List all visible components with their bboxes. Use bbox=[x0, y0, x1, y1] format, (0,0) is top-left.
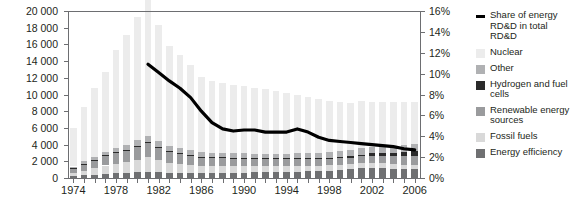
y-tick-left bbox=[64, 128, 68, 129]
share-line bbox=[68, 11, 420, 178]
y-tick-label-left: 2 000 bbox=[32, 155, 58, 167]
y-tick-label-right: 4% bbox=[429, 130, 444, 142]
y-tick-label-left: 10 000 bbox=[26, 89, 58, 101]
y-tick-label-right: 6% bbox=[429, 109, 444, 121]
legend-label: Nuclear bbox=[490, 47, 523, 58]
plot-area bbox=[68, 11, 420, 178]
y-tick-right bbox=[421, 157, 425, 158]
chart-legend: Share of energy RD&D in total RD&DNuclea… bbox=[476, 10, 577, 163]
y-tick-left bbox=[64, 11, 68, 12]
legend-swatch bbox=[476, 81, 485, 90]
y-tick-label-left: 0 bbox=[52, 172, 58, 184]
y-tick-label-left: 20 000 bbox=[26, 5, 58, 17]
legend-item[interactable]: Share of energy RD&D in total RD&D bbox=[476, 10, 577, 42]
top-spine bbox=[68, 11, 421, 12]
y-tick-right bbox=[421, 136, 425, 137]
x-tick-label: 1986 bbox=[189, 184, 213, 196]
y-tick-label-left: 6 000 bbox=[32, 122, 58, 134]
y-tick-left bbox=[64, 178, 68, 179]
y-tick-right bbox=[421, 74, 425, 75]
legend-item[interactable]: Other bbox=[476, 63, 577, 74]
legend-swatch bbox=[476, 107, 485, 116]
y-tick-label-right: 8% bbox=[429, 89, 444, 101]
y-tick-label-left: 16 000 bbox=[26, 38, 58, 50]
y-tick-left bbox=[64, 28, 68, 29]
y-tick-label-right: 16% bbox=[429, 5, 450, 17]
y-tick-label-left: 4 000 bbox=[32, 139, 58, 151]
legend-swatch bbox=[476, 49, 485, 58]
y-tick-right bbox=[421, 11, 425, 12]
y-tick-right bbox=[421, 115, 425, 116]
y-tick-label-right: 14% bbox=[429, 26, 450, 38]
legend-label: Share of energy RD&D in total RD&D bbox=[490, 10, 577, 42]
y-tick-label-right: 10% bbox=[429, 68, 450, 80]
y-tick-label-left: 18 000 bbox=[26, 22, 58, 34]
x-tick-label: 2002 bbox=[360, 184, 384, 196]
x-tick-label: 1974 bbox=[61, 184, 85, 196]
legend-item[interactable]: Renewable energy sources bbox=[476, 105, 577, 126]
legend-label: Fossil fuels bbox=[490, 131, 538, 142]
y-tick-left bbox=[64, 145, 68, 146]
y-tick-label-right: 12% bbox=[429, 47, 450, 59]
legend-item[interactable]: Fossil fuels bbox=[476, 131, 577, 142]
y-tick-label-right: 0% bbox=[429, 172, 444, 184]
x-tick-label: 1978 bbox=[104, 184, 128, 196]
legend-label: Hydrogen and fuel cells bbox=[490, 79, 577, 100]
x-tick-label: 1998 bbox=[317, 184, 341, 196]
y-tick-label-left: 14 000 bbox=[26, 55, 58, 67]
x-tick-label: 1982 bbox=[146, 184, 170, 196]
legend-item[interactable]: Nuclear bbox=[476, 47, 577, 58]
y-tick-label-left: 12 000 bbox=[26, 72, 58, 84]
legend-swatch bbox=[476, 149, 485, 158]
y-tick-label-left: 8 000 bbox=[32, 105, 58, 117]
legend-label: Other bbox=[490, 63, 514, 74]
y-axis-ticklabels-left: 02 0004 0006 0008 00010 00012 00014 0001… bbox=[6, 0, 58, 210]
legend-label: Energy efficiency bbox=[490, 147, 562, 158]
y-tick-left bbox=[64, 78, 68, 79]
y-tick-right bbox=[421, 95, 425, 96]
y-tick-left bbox=[64, 61, 68, 62]
x-tick-label: 1994 bbox=[274, 184, 298, 196]
chart-figure: Million USD (2005 prices and PPP) Share … bbox=[0, 0, 577, 210]
legend-swatch bbox=[476, 133, 485, 142]
legend-label: Renewable energy sources bbox=[490, 105, 577, 126]
line-series-group bbox=[68, 11, 420, 178]
y-tick-right bbox=[421, 32, 425, 33]
legend-item[interactable]: Hydrogen and fuel cells bbox=[476, 79, 577, 100]
y-tick-right bbox=[421, 53, 425, 54]
y-tick-right bbox=[421, 178, 425, 179]
y-tick-left bbox=[64, 95, 68, 96]
legend-item[interactable]: Energy efficiency bbox=[476, 147, 577, 158]
legend-line-marker bbox=[476, 15, 485, 18]
y-tick-label-right: 2% bbox=[429, 151, 444, 163]
y-axis-left-spine bbox=[68, 11, 69, 178]
legend-swatch bbox=[476, 65, 485, 74]
y-tick-left bbox=[64, 44, 68, 45]
x-axis-ticklabels: 197419781982198619901994199820022006 bbox=[68, 182, 420, 202]
y-axis-ticklabels-right: 0%2%4%6%8%10%12%14%16% bbox=[429, 0, 463, 210]
y-tick-left bbox=[64, 161, 68, 162]
y-tick-left bbox=[64, 111, 68, 112]
x-tick-label: 2006 bbox=[402, 184, 426, 196]
x-tick-label: 1990 bbox=[232, 184, 256, 196]
